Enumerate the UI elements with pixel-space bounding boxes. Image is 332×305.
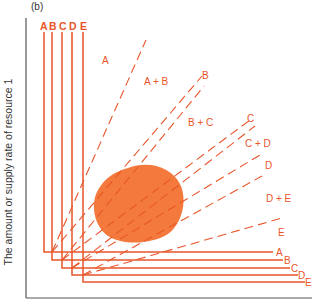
top-label-c: C (59, 20, 67, 32)
top-label-d: D (69, 20, 77, 32)
zngi-isoclines (44, 32, 305, 282)
top-label-b: B (49, 20, 57, 32)
ray-label-d: D (265, 161, 272, 171)
region-label-d-plus-e: D + E (266, 194, 291, 204)
ray-label-c: C (247, 114, 254, 124)
isocline-c (62, 32, 290, 268)
right-label-b: B (284, 256, 291, 266)
ray-label-b: B (202, 71, 209, 81)
panel-label: (b) (31, 1, 43, 12)
region-label-b-plus-c: B + C (188, 118, 213, 128)
region-label-c-plus-d: C + D (245, 139, 271, 149)
axes (26, 18, 312, 298)
right-label-e: E (305, 278, 312, 288)
right-label-a: A (276, 248, 283, 258)
isocline-e (83, 32, 305, 282)
top-label-e: E (80, 20, 87, 32)
isocline-d (72, 32, 298, 275)
resource-competition-diagram: (b) The amount or supply rate of resourc… (0, 0, 332, 305)
region-label-e: E (278, 228, 285, 238)
region-label-a: A (102, 56, 109, 66)
diagram-svg (0, 0, 332, 305)
region-label-a-plus-b: A + B (144, 77, 168, 87)
top-label-a: A (40, 20, 48, 32)
y-axis-label: The amount or supply rate of resource 1 (2, 72, 14, 272)
